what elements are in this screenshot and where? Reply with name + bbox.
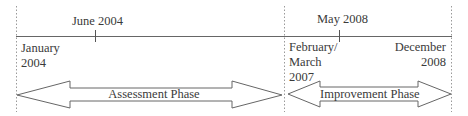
label-feb-march-2007-line3: 2007 — [289, 70, 338, 85]
label-june-2004: June 2004 — [72, 14, 123, 29]
label-december-2008: December 2008 — [395, 40, 446, 70]
assessment-phase-label: Assessment Phase — [100, 87, 208, 102]
label-december-2008-line1: December — [395, 40, 446, 55]
label-january-2004-line1: January — [21, 41, 60, 56]
improvement-phase-label: Improvement Phase — [320, 87, 418, 102]
label-feb-march-2007: February/ March 2007 — [289, 40, 338, 85]
label-feb-march-2007-line2: March — [289, 55, 338, 70]
label-january-2004-line2: 2004 — [21, 56, 60, 71]
label-may-2008: May 2008 — [317, 12, 368, 27]
label-feb-march-2007-line1: February/ — [289, 40, 338, 55]
label-january-2004: January 2004 — [21, 41, 60, 71]
label-december-2008-line2: 2008 — [395, 55, 446, 70]
